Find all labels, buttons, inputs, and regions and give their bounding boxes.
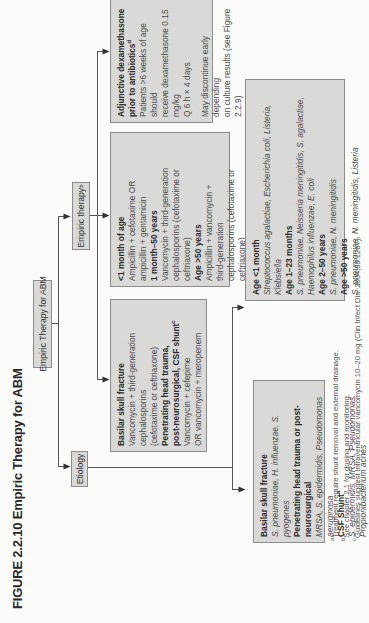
- footnote: cGuidelines suggest intraventricular van…: [352, 237, 363, 541]
- empiric-therapy-node: Empiric therapyb: [72, 182, 90, 250]
- box-heading: Age <1 month: [251, 85, 262, 295]
- box-line: Vancomycin + third-generation: [127, 305, 138, 446]
- box-line: OR vancomycin + meropenem: [193, 305, 204, 446]
- connector: [88, 467, 232, 468]
- footnote: aTreatment require shunt removal and ext…: [330, 237, 341, 541]
- footnotes: aTreatment require shunt removal and ext…: [330, 237, 363, 541]
- box-heading: Age 1–23 months: [284, 85, 295, 295]
- box-line: ampicillin + gentamicin: [138, 138, 149, 281]
- box-heading: 1 month–50 years: [149, 138, 160, 281]
- dexamethasone-title-2: prior to antibioticsd: [127, 0, 138, 117]
- box-line: Ampicillin + cefotaxime OR: [127, 138, 138, 281]
- box-line: S. pneumoniae, H. influenzae, S. pyogene…: [270, 386, 292, 537]
- box-heading: post-neurosurgical, CSF shuntc: [171, 305, 182, 446]
- box-line: third-generation: [215, 138, 226, 281]
- arrow-icon: [239, 487, 246, 493]
- figure-title: FIGURE 2.2.10 Empiric Therapy for ABM: [10, 368, 25, 609]
- dexamethasone-line: Patients >6 weeks of age should: [138, 0, 160, 117]
- dexamethasone-line: receive dexamethasone 0.15 mg/kg: [160, 0, 182, 117]
- box-heading: <1 month of age: [116, 138, 127, 281]
- etiology-node-label: Etiology: [75, 454, 85, 485]
- box-line: Vancomycin + third-generation: [160, 138, 171, 281]
- box-line: cephalosporins: [138, 305, 149, 446]
- dexamethasone-box: Adjunctive dexamethasone prior to antibi…: [110, 0, 213, 123]
- root-node-label: Empiric Therapy for ABM: [38, 276, 48, 371]
- box-line: S. pneumoniae, Neisseria meningitidis, S…: [295, 85, 317, 295]
- box-heading: Age >50 years: [193, 138, 204, 281]
- empiric-therapy-label: Empiric therapy: [76, 188, 86, 248]
- arrow-icon: [103, 377, 110, 383]
- box-heading: Penetrating head trauma or post-neurosur…: [292, 386, 314, 537]
- arrow-icon: [238, 305, 245, 311]
- box-line: Ampicillin + vancomycin +: [204, 138, 215, 281]
- box-line: Streptococcus agalactiae, Escherichia co…: [262, 85, 284, 295]
- dexamethasone-note: May discontinue early depending: [200, 0, 222, 117]
- box-line: cephalosporins (cefotaxime or ceftriaxon…: [171, 138, 193, 281]
- box-heading: Penetrating head trauma,: [160, 305, 171, 446]
- box-line: Vancomycin + cefepime: [182, 305, 193, 446]
- box-heading: Age 2–50 years: [317, 85, 328, 295]
- dexamethasone-note: on culture results (see Figure 2.2.9): [222, 0, 244, 117]
- treatment-age-box: <1 month of ageAmpicillin + cefotaxime O…: [110, 132, 230, 287]
- box-heading: Basilar skull fracture: [259, 386, 270, 537]
- arrow-icon: [103, 49, 110, 55]
- box-heading: Basilar skull fracture: [116, 305, 127, 446]
- figure-canvas: FIGURE 2.2.10 Empiric Therapy for ABM Em…: [0, 0, 369, 623]
- etiology-node: Etiology: [71, 451, 88, 487]
- connector: [232, 307, 233, 490]
- organisms-special-box: Basilar skull fractureS. pneumoniae, H. …: [253, 380, 325, 543]
- root-node: Empiric Therapy for ABM: [33, 280, 52, 368]
- arrow-icon: [64, 214, 71, 220]
- treatment-special-box: Basilar skull fractureVancomycin + third…: [110, 299, 207, 452]
- dexamethasone-title: Adjunctive dexamethasone: [116, 0, 127, 117]
- arrow-icon: [64, 464, 71, 470]
- connector: [90, 215, 97, 216]
- connector: [58, 217, 59, 467]
- footnote: bSee chapter 2.1 for dosing and monitori…: [341, 237, 352, 541]
- box-line: (cefotaxime or ceftriaxone): [149, 305, 160, 446]
- dexamethasone-line: Q 6 h × 4 days: [182, 0, 193, 117]
- arrow-icon: [103, 213, 110, 219]
